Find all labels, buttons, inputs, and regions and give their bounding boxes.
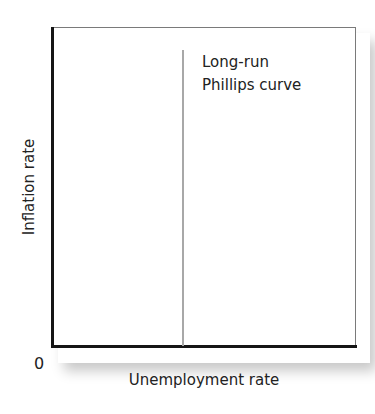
y-axis-label: Inflation rate bbox=[20, 139, 38, 236]
y-axis-line bbox=[51, 27, 54, 347]
long-run-phillips-curve-line bbox=[182, 50, 184, 346]
phillips-curve-figure: Long-run Phillips curve 0 Unemployment r… bbox=[0, 0, 375, 414]
curve-label-line1: Long-run bbox=[202, 51, 301, 74]
x-axis-label: Unemployment rate bbox=[52, 371, 356, 389]
x-axis-line bbox=[51, 345, 357, 348]
curve-label: Long-run Phillips curve bbox=[202, 51, 301, 97]
curve-label-line2: Phillips curve bbox=[202, 74, 301, 97]
origin-label: 0 bbox=[34, 354, 44, 373]
